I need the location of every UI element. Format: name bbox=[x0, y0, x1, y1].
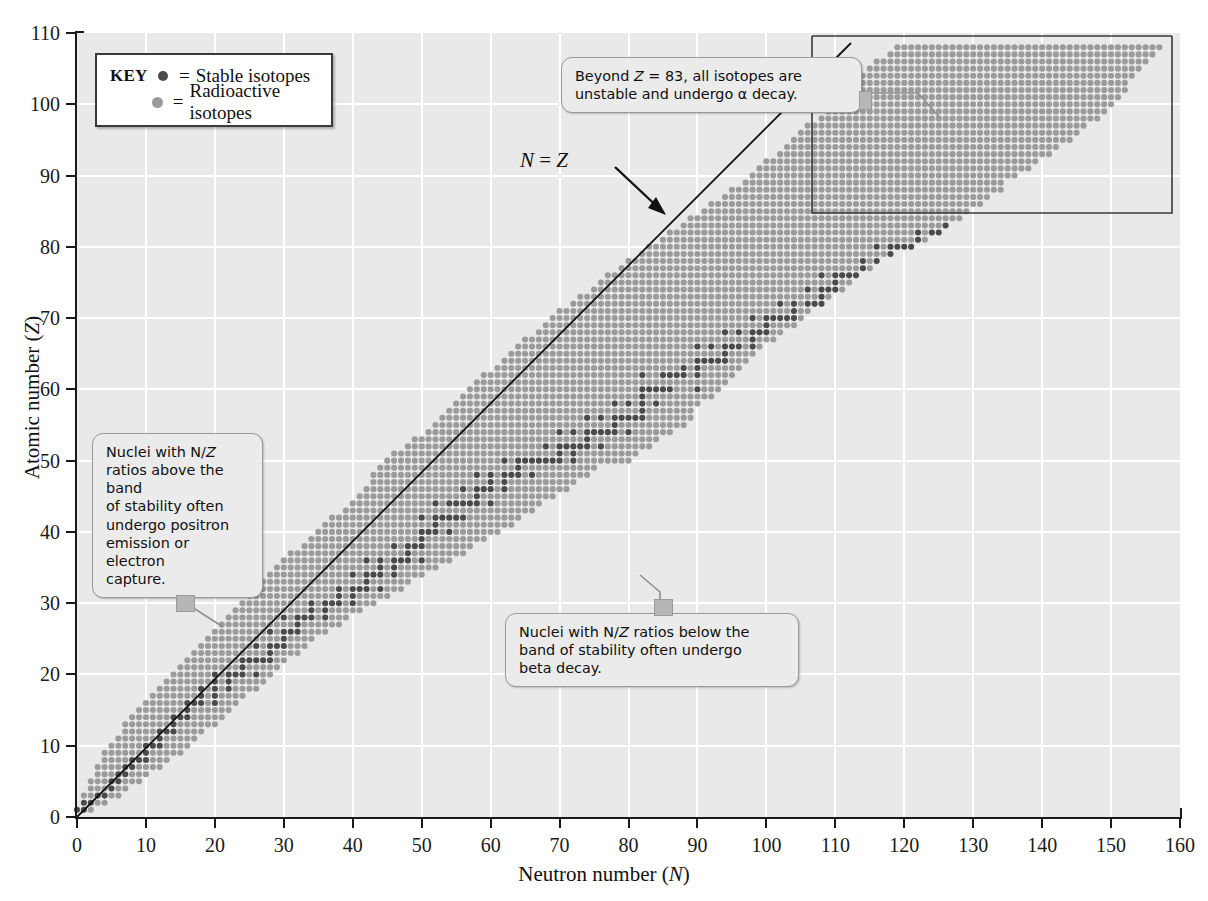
n-equals-z-label-text: N = Z bbox=[520, 148, 568, 172]
callout-above-line-3: of stability often bbox=[106, 497, 250, 515]
callout-above-line-2: ratios above the band bbox=[106, 461, 250, 497]
callout-below-nub bbox=[654, 599, 673, 616]
legend-label-radioactive: Radioactive isotopes bbox=[190, 80, 331, 124]
legend-equals-radioactive: = bbox=[173, 91, 184, 113]
x-axis-right-cap bbox=[1180, 808, 1182, 819]
legend-title: KEY bbox=[110, 66, 156, 86]
callout-above-band: Nuclei with N/Z ratios above the band of… bbox=[92, 433, 263, 598]
callout-alpha-nub bbox=[859, 91, 872, 110]
callout-above-line-4: undergo positron bbox=[106, 516, 250, 534]
y-axis-title: Atomic number (Z) bbox=[20, 248, 45, 548]
isotope-chart: 0102030405060708090100110010203040506070… bbox=[0, 0, 1208, 901]
legend-row-radioactive: = Radioactive isotopes bbox=[110, 89, 331, 115]
z-greater-83-box bbox=[812, 36, 1172, 213]
n-equals-z-label: N = Z bbox=[520, 148, 568, 173]
leader-line-alpha bbox=[866, 93, 940, 118]
callout-above-line-1: Nuclei with N/Z bbox=[106, 443, 250, 461]
x-axis-line bbox=[75, 817, 1182, 819]
n-equals-z-line bbox=[77, 43, 851, 817]
y-axis-top-cap bbox=[75, 31, 84, 33]
callout-below-band: Nuclei with N/Z ratios below the band of… bbox=[505, 613, 799, 687]
callout-above-line-6: capture. bbox=[106, 570, 250, 588]
legend-marker-stable bbox=[156, 71, 170, 81]
callout-above-nub bbox=[176, 595, 195, 612]
y-axis-title-text: Atomic number (Z) bbox=[20, 316, 44, 479]
callout-below-line-3: beta decay. bbox=[519, 659, 786, 677]
callout-above-line-5: emission or electron bbox=[106, 534, 250, 570]
callout-alpha-line-1: Beyond Z = 83, all isotopes are bbox=[575, 67, 849, 85]
legend-equals-stable: = bbox=[179, 65, 190, 87]
legend-key: KEY = Stable isotopes = Radioactive isot… bbox=[95, 53, 333, 127]
x-axis-title-text: Neutron number (N) bbox=[518, 862, 689, 886]
callout-below-line-1: Nuclei with N/Z ratios below the bbox=[519, 623, 786, 641]
callout-alpha-line-2: unstable and undergo α decay. bbox=[575, 85, 849, 103]
y-axis-line bbox=[75, 31, 77, 819]
legend-marker-radioactive bbox=[151, 97, 164, 108]
x-axis-title: Neutron number (N) bbox=[454, 862, 754, 887]
callout-below-line-2: band of stability often undergo bbox=[519, 641, 786, 659]
callout-alpha-decay: Beyond Z = 83, all isotopes are unstable… bbox=[561, 57, 862, 113]
